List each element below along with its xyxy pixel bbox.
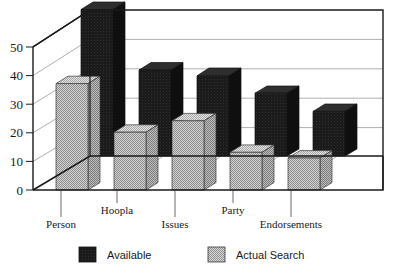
y-tick-label-40: 40 bbox=[10, 68, 23, 83]
x-label-hoopla: Hoopla bbox=[101, 204, 134, 216]
y-tick-label-10: 10 bbox=[10, 154, 23, 169]
y-tick-label-0: 0 bbox=[17, 183, 24, 198]
legend-label-actual-search: Actual Search bbox=[236, 249, 304, 261]
y-axis-ticks bbox=[26, 47, 33, 190]
bar-endorsements-available bbox=[313, 104, 357, 156]
bar-party-actual-search bbox=[230, 145, 274, 190]
legend: Available Actual Search bbox=[79, 247, 304, 262]
chart-container: 50 40 30 20 10 0 Person Hoopla Issues Pa… bbox=[0, 0, 395, 274]
legend-swatch-actual-search bbox=[208, 247, 225, 262]
bar-hoopla-actual-search bbox=[114, 125, 158, 190]
x-label-party: Party bbox=[221, 204, 245, 216]
bar-chart-3d: 50 40 30 20 10 0 Person Hoopla Issues Pa… bbox=[0, 0, 395, 274]
y-tick-label-50: 50 bbox=[10, 40, 23, 55]
bar-issues-actual-search bbox=[172, 113, 216, 190]
x-label-issues: Issues bbox=[162, 218, 189, 230]
y-tick-label-30: 30 bbox=[10, 97, 23, 112]
x-axis-leader-lines bbox=[61, 191, 291, 217]
y-tick-label-20: 20 bbox=[10, 125, 23, 140]
legend-swatch-available bbox=[79, 247, 96, 262]
x-label-person: Person bbox=[46, 218, 76, 230]
legend-label-available: Available bbox=[107, 249, 151, 261]
x-axis-labels: Person Hoopla Issues Party Endorsements bbox=[46, 204, 322, 230]
x-label-endorsements: Endorsements bbox=[260, 218, 322, 230]
y-axis-labels: 50 40 30 20 10 0 bbox=[10, 40, 23, 198]
